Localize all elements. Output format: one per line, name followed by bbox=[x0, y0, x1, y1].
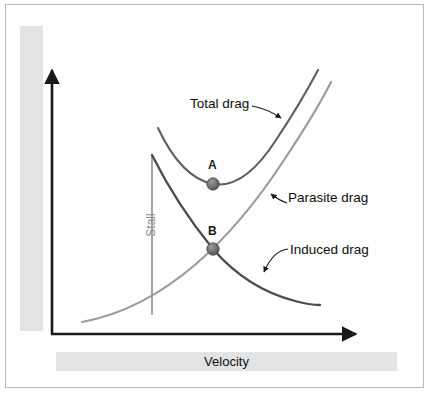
marker-point-b bbox=[207, 243, 219, 255]
stall-label: Stall bbox=[144, 213, 158, 236]
total-drag-label: Total drag bbox=[190, 96, 249, 111]
total-drag-curve bbox=[158, 70, 318, 185]
x-axis-label: Velocity bbox=[204, 354, 249, 369]
induced-drag-label: Induced drag bbox=[290, 242, 369, 257]
point-a-label: A bbox=[208, 158, 217, 172]
induced-drag-leader bbox=[264, 249, 288, 272]
marker-point-a bbox=[207, 178, 219, 190]
x-axis-label-band: Velocity bbox=[56, 352, 397, 371]
figure-root: Drag (pounds) bbox=[0, 0, 430, 395]
point-b-label: B bbox=[208, 224, 217, 238]
parasite-drag-leader bbox=[271, 194, 287, 203]
parasite-drag-label: Parasite drag bbox=[288, 190, 368, 205]
total-drag-leader bbox=[252, 106, 281, 118]
induced-drag-curve bbox=[152, 155, 320, 305]
